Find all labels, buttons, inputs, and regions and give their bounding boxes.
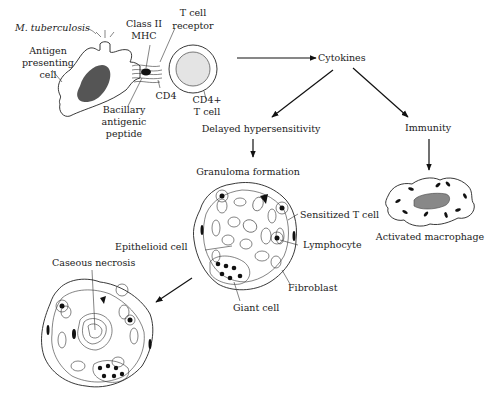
- label-tcr-1: T cell: [180, 7, 206, 18]
- label-peptide-3: peptide: [106, 128, 143, 139]
- label-sensitized-t-cell: Sensitized T cell: [300, 209, 379, 220]
- label-peptide-2: antigenic: [102, 116, 147, 127]
- tb-immune-response-diagram: M. tuberculosis Antigen presenting cell …: [0, 0, 489, 407]
- label-caseous-necrosis: Caseous necrosis: [52, 257, 135, 268]
- label-cd4-tcell-1: CD4+: [193, 94, 222, 105]
- label-peptide-1: Bacillary: [103, 104, 146, 115]
- label-delayed-hypersensitivity: Delayed hypersensitivity: [202, 123, 321, 134]
- label-mhc-2: MHC: [131, 30, 156, 41]
- label-apc-1: Antigen: [28, 45, 67, 56]
- label-mhc-1: Class II: [126, 18, 162, 29]
- label-epithelioid-cell: Epithelioid cell: [115, 241, 188, 252]
- activated-macrophage-illustration: [386, 178, 475, 226]
- label-granuloma-formation: Granuloma formation: [196, 166, 300, 177]
- label-lymphocyte: Lymphocyte: [303, 239, 362, 250]
- label-tcr-2: receptor: [172, 20, 214, 31]
- label-activated-macrophage: Activated macrophage: [375, 231, 485, 242]
- label-fibroblast: Fibroblast: [288, 282, 338, 293]
- label-cytokines: Cytokines: [318, 52, 366, 63]
- label-apc-2: presenting: [22, 57, 74, 68]
- arrow-to-caseous-necrosis: [156, 278, 192, 302]
- arrow-to-dth: [272, 70, 333, 117]
- caseous-granuloma-illustration: [42, 270, 153, 387]
- label-cd4-tcell-2: T cell: [194, 106, 220, 117]
- label-giant-cell: Giant cell: [233, 302, 279, 313]
- granuloma-illustration: [193, 183, 298, 302]
- label-cd4: CD4: [156, 90, 177, 101]
- arrow-to-immunity: [353, 68, 408, 117]
- label-m-tuberculosis: M. tuberculosis: [14, 22, 90, 33]
- label-immunity: Immunity: [405, 122, 452, 133]
- label-apc-3: cell: [39, 69, 56, 80]
